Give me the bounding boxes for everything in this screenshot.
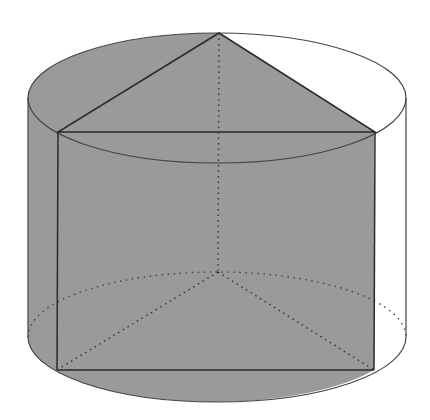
cylinder-prism-diagram — [0, 0, 430, 420]
prism-right-edge — [374, 132, 375, 370]
prism-left-edge — [57, 132, 58, 370]
